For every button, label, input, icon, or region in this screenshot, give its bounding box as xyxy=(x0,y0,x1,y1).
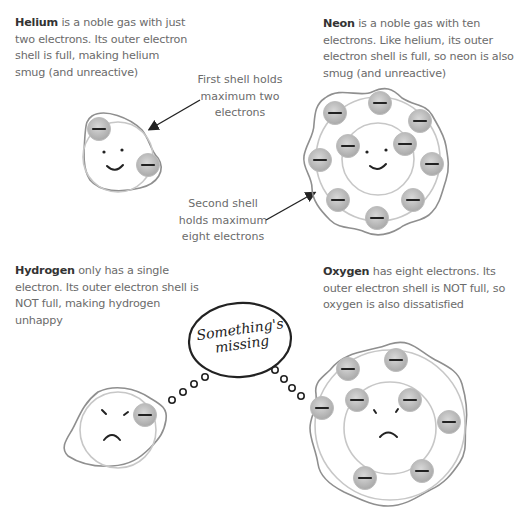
happy-face-icon xyxy=(102,148,123,169)
electron xyxy=(134,404,157,427)
electron xyxy=(137,154,160,177)
electron xyxy=(366,207,389,230)
electron xyxy=(337,135,360,158)
electron xyxy=(324,102,347,125)
electron xyxy=(354,467,377,490)
electron xyxy=(421,153,444,176)
electron xyxy=(309,149,332,172)
sad-face-icon xyxy=(374,409,398,437)
happy-face-icon xyxy=(365,148,387,169)
neon-atom xyxy=(304,89,449,235)
electron xyxy=(385,349,408,372)
electron xyxy=(327,189,350,212)
electron xyxy=(337,358,360,381)
oxygen-atom xyxy=(310,342,467,506)
helium-atom xyxy=(83,113,161,192)
electron xyxy=(409,110,432,133)
electron xyxy=(346,389,369,412)
electron xyxy=(438,411,461,434)
electron xyxy=(402,189,425,212)
electron xyxy=(88,118,111,141)
electron xyxy=(394,133,417,156)
second-shell-arrow xyxy=(266,193,314,220)
electron xyxy=(399,389,422,412)
hydrogen-atom xyxy=(64,388,166,468)
electron xyxy=(369,92,392,115)
atom-illustration xyxy=(0,0,530,522)
sad-face-icon xyxy=(102,410,128,440)
first-shell-arrow xyxy=(150,100,200,129)
electron xyxy=(311,397,334,420)
electron xyxy=(411,460,434,483)
